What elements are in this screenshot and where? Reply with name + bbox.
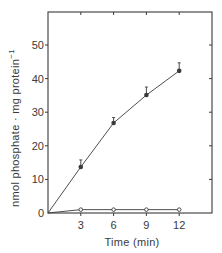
y-axis-exponent: −1: [7, 49, 16, 59]
y-axis-label: nmol phosphate · mg protein: [9, 59, 21, 207]
y-tick-label: 0: [38, 207, 44, 219]
x-tick-label: 3: [78, 219, 84, 231]
series-line: [48, 71, 179, 213]
data-point-filled: [111, 121, 116, 126]
svg-text:nmol phosphate · mg protein−1: nmol phosphate · mg protein−1: [7, 49, 21, 207]
data-point-open: [177, 208, 181, 212]
series-open-circles: [48, 208, 181, 213]
data-series: [48, 63, 182, 213]
series-filled-circles: [48, 63, 182, 213]
x-tick-label: 9: [143, 219, 149, 231]
y-tick-label: 40: [32, 73, 44, 85]
y-tick-label: 10: [32, 173, 44, 185]
y-tick-label: 30: [32, 106, 44, 118]
x-tick-label: 12: [173, 219, 185, 231]
plot-border: [48, 12, 212, 213]
data-point-filled: [177, 69, 182, 74]
x-axis-label: Time (min): [104, 236, 159, 248]
data-point-open: [112, 208, 116, 212]
y-tick-label: 20: [32, 140, 44, 152]
plot-frame: [48, 12, 212, 213]
data-point-filled: [79, 165, 84, 170]
data-point-filled: [144, 93, 149, 98]
y-tick-label: 50: [32, 39, 44, 51]
data-point-open: [145, 208, 149, 212]
y-axis-label-group: nmol phosphate · mg protein−1: [7, 49, 21, 207]
data-point-open: [79, 208, 83, 212]
x-tick-label: 6: [111, 219, 117, 231]
chart: 0102030405036912 Time (min) nmol phospha…: [0, 0, 222, 253]
